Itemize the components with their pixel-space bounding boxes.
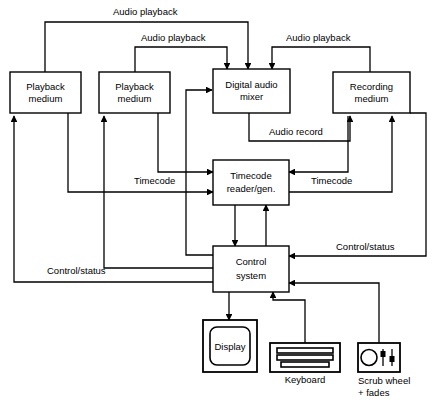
node-recording-medium[interactable]: Recording medium — [333, 72, 410, 113]
scrub-wheel-icon — [361, 350, 377, 366]
node-label-control-line1: Control — [236, 256, 267, 267]
edge-label-audio-playback-top: Audio playback — [113, 6, 178, 17]
block-diagram: Playback medium Playback medium Digital … — [0, 0, 433, 403]
device-caption-scrub-line2: + fades — [358, 387, 390, 398]
edge-label-timecode-left: Timecode — [134, 175, 175, 186]
edge-label-audio-record: Audio record — [269, 126, 323, 137]
edge-label-control-status-right: Control/status — [336, 241, 395, 252]
node-playback-medium-1[interactable]: Playback medium — [10, 72, 81, 113]
wire-scrub-to-control — [289, 283, 379, 343]
wire-keyboard-to-control — [273, 292, 305, 343]
edge-label-timecode-right: Timecode — [311, 175, 352, 186]
node-label-timecode-line1: Timecode — [230, 170, 271, 181]
node-label-control-line2: system — [236, 270, 266, 281]
device-label-display: Display — [214, 341, 245, 352]
node-label-mixer-line2: mixer — [240, 91, 263, 102]
node-control-system[interactable]: Control system — [213, 246, 289, 292]
device-caption-keyboard: Keyboard — [285, 374, 326, 385]
node-label-playback2-line2: medium — [118, 93, 152, 104]
edge-label-audio-playback-right: Audio playback — [286, 32, 351, 43]
node-timecode-reader-gen[interactable]: Timecode reader/gen. — [213, 160, 289, 205]
node-label-recording-line1: Recording — [350, 81, 393, 92]
edge-label-audio-playback-mid: Audio playback — [141, 32, 206, 43]
node-label-playback1-line2: medium — [29, 93, 63, 104]
node-digital-audio-mixer[interactable]: Digital audio mixer — [213, 69, 290, 113]
wire-recording-timecode-in — [289, 116, 348, 172]
node-label-playback2-line1: Playback — [115, 81, 154, 92]
wire-group-control-status — [14, 90, 426, 343]
wire-control-to-playback1 — [14, 116, 213, 282]
node-label-playback1-line1: Playback — [26, 81, 65, 92]
node-label-recording-line2: medium — [355, 93, 389, 104]
diagram-canvas: Playback medium Playback medium Digital … — [0, 0, 433, 403]
device-display[interactable]: Display — [203, 320, 257, 372]
edge-label-control-status-left: Control/status — [47, 265, 106, 276]
keyboard-keys-icon — [277, 348, 333, 367]
device-caption-scrub-line1: Scrub wheel — [358, 375, 410, 386]
device-scrub-wheel[interactable]: Scrub wheel + fades — [358, 343, 410, 398]
node-label-timecode-line2: reader/gen. — [227, 183, 276, 194]
node-label-mixer-line1: Digital audio — [225, 79, 277, 90]
device-keyboard[interactable]: Keyboard — [270, 343, 340, 385]
node-playback-medium-2[interactable]: Playback medium — [99, 72, 170, 113]
